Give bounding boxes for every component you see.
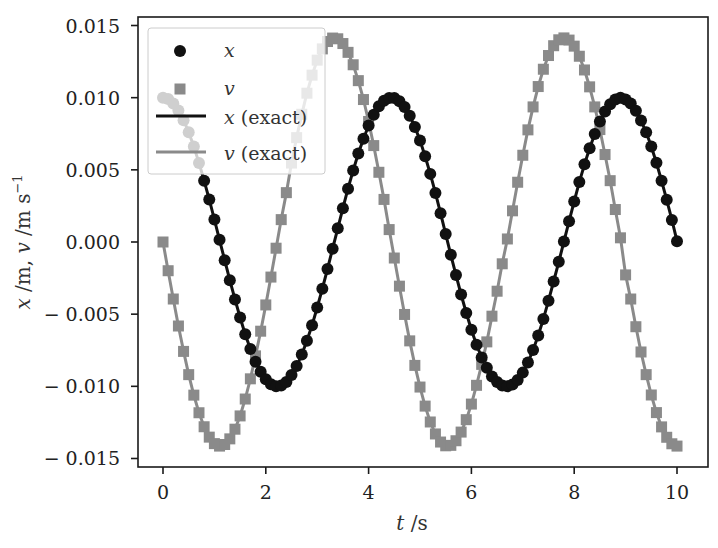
marker-x (661, 194, 673, 206)
marker-x (363, 120, 375, 132)
marker-v (235, 410, 246, 421)
marker-x (332, 222, 344, 234)
marker-x (224, 274, 236, 286)
marker-x (656, 175, 668, 187)
marker-v (512, 177, 523, 188)
marker-v (281, 187, 292, 198)
y-tick-label: 0.015 (66, 15, 120, 37)
x-axis-label: t /s (396, 511, 427, 535)
x-axis: 0246810 (157, 467, 689, 503)
marker-v (368, 140, 379, 151)
marker-v (384, 224, 395, 235)
marker-v (409, 360, 420, 371)
marker-x (568, 195, 580, 207)
marker-v (466, 399, 477, 410)
marker-v (229, 424, 240, 435)
marker-x (429, 187, 441, 199)
marker-v (199, 421, 210, 432)
marker-x (239, 328, 251, 340)
marker-x (327, 243, 339, 255)
marker-v (456, 427, 467, 438)
marker-x (471, 339, 483, 351)
marker-x (589, 128, 601, 140)
marker-v (486, 311, 497, 322)
marker-v (399, 309, 410, 320)
marker-v (188, 390, 199, 401)
marker-v (517, 150, 528, 161)
marker-v (420, 401, 431, 412)
marker-v (492, 286, 503, 297)
marker-x (234, 311, 246, 323)
y-tick-label: 0.005 (66, 159, 120, 181)
marker-x (352, 148, 364, 160)
marker-x (558, 236, 570, 248)
marker-x (203, 194, 215, 206)
marker-v (481, 336, 492, 347)
marker-v (183, 369, 194, 380)
marker-v (615, 232, 626, 243)
marker-v (276, 214, 287, 225)
legend-square-icon (175, 84, 186, 95)
marker-v (353, 75, 364, 86)
marker-x (337, 202, 349, 214)
marker-v (168, 294, 179, 305)
marker-v (538, 64, 549, 75)
marker-v (641, 369, 652, 380)
marker-x (214, 234, 226, 246)
marker-v (394, 281, 405, 292)
marker-x (296, 349, 308, 361)
marker-x (465, 324, 477, 336)
legend-circle-icon (174, 45, 186, 57)
marker-x (645, 140, 657, 152)
marker-v (656, 421, 667, 432)
marker-x (219, 254, 231, 266)
marker-x (522, 357, 534, 369)
marker-x (650, 157, 662, 169)
marker-x (357, 133, 369, 145)
marker-x (198, 175, 210, 187)
marker-x (455, 289, 467, 301)
marker-x (450, 269, 462, 281)
marker-v (260, 299, 271, 310)
marker-v (425, 416, 436, 427)
marker-v (522, 124, 533, 135)
marker-v (610, 204, 621, 215)
marker-x (440, 228, 452, 240)
marker-v (193, 407, 204, 418)
legend-label: v (exact) (224, 142, 307, 164)
marker-x (671, 235, 683, 247)
marker-x (409, 121, 421, 133)
marker-v (605, 175, 616, 186)
marker-v (574, 51, 585, 62)
marker-v (533, 81, 544, 92)
marker-v (579, 64, 590, 75)
marker-v (497, 258, 508, 269)
marker-v (173, 321, 184, 332)
marker-x (537, 313, 549, 325)
y-axis: 0.0150.0100.0050.000− 0.005− 0.010− 0.01… (44, 15, 138, 470)
marker-v (569, 41, 580, 52)
marker-v (600, 149, 611, 160)
marker-v (265, 272, 276, 283)
marker-x (578, 158, 590, 170)
marker-v (379, 194, 390, 205)
marker-x (321, 263, 333, 275)
marker-v (178, 346, 189, 357)
marker-v (373, 167, 384, 178)
x-tick-label: 10 (665, 481, 689, 503)
marker-v (348, 59, 359, 70)
marker-x (445, 249, 457, 261)
y-tick-label: − 0.005 (44, 303, 120, 325)
marker-x (584, 142, 596, 154)
x-tick-label: 8 (568, 481, 580, 503)
marker-v (461, 414, 472, 425)
marker-x (460, 307, 472, 319)
marker-x (424, 168, 436, 180)
marker-v (245, 373, 256, 384)
marker-v (584, 81, 595, 92)
marker-x (635, 114, 647, 126)
legend: xvx (exact)v (exact) (148, 28, 325, 174)
marker-x (553, 256, 565, 268)
x-tick-label: 6 (465, 481, 477, 503)
marker-x (563, 215, 575, 227)
